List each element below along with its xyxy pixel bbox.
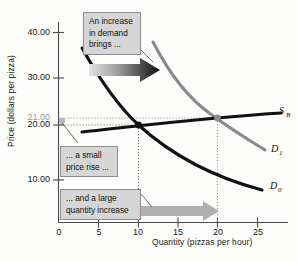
label-d0-sub: 0 [278,186,282,194]
x-axis-title: Quantity (pizzas per hour) [152,237,252,247]
curve-sb [82,113,281,132]
callout-price-line2: price rise ... [66,162,112,174]
label-sb: S [279,105,284,116]
callout-demand-line3: brings ... [89,39,135,51]
ytick-label-30: 30.00 [4,72,50,82]
xtick-label-15: 15 [166,227,190,237]
figure-container: S B D 1 D 0 Price (dollars per pizza) Qu… [0,0,297,262]
callout-price-line1: ... a small [66,150,112,162]
label-sb-sub: B [286,111,291,119]
point-equilibrium-original [135,122,142,129]
callout-demand-line2: in demand [89,28,135,40]
callout-price-rise: ... a small price rise ... [60,146,118,177]
label-d1-sub: 1 [279,149,283,157]
label-d0: D [269,180,278,191]
callout-quantity-increase: ... and a large quantity increase [60,189,141,220]
curve-labels: S B D 1 D 0 [269,105,291,194]
xtick-label-0: 0 [47,227,71,237]
xtick-label-10: 10 [126,227,150,237]
curve-d1 [153,42,265,150]
leader-price [62,123,78,143]
y-axis-title: Price (dollars per pizza) [6,46,16,156]
xtick-label-5: 5 [87,227,111,237]
xtick-label-20: 20 [206,227,230,237]
xtick-label-25: 25 [246,227,270,237]
callout-quantity-line2: quantity increase [66,205,135,217]
ytick-label-20: 20.00 [4,119,50,129]
point-equilibrium-new [214,115,221,122]
quantity-increase-arrow [140,201,219,221]
leader-quantity [141,194,152,207]
callout-demand-line1: An increase [89,16,135,28]
ytick-label-10: 10.00 [4,174,50,184]
callout-quantity-line1: ... and a large [66,193,135,205]
label-d1: D [270,143,279,154]
ytick-label-40: 40.00 [4,27,50,37]
chart-canvas: S B D 1 D 0 [0,0,297,262]
callout-demand-increase: An increase in demand brings ... [83,12,141,55]
